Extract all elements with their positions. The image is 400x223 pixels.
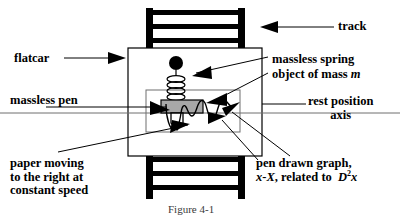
label-massless-spring: massless spring — [272, 53, 354, 67]
pen-graph-line1: pen drawn graph, — [256, 156, 352, 170]
label-paper-moving: paper movingto the right atconstant spee… — [10, 157, 88, 198]
rest-position-line1: rest position — [308, 94, 373, 108]
label-flatcar: flatcar — [14, 52, 49, 66]
spring-anchor — [169, 56, 183, 70]
pen-graph-D: D — [338, 170, 347, 184]
rest-position-line2: axis — [330, 108, 351, 122]
paper-moving-line2: to the right at — [10, 170, 83, 184]
figure-caption: Figure 4-1 — [168, 203, 214, 215]
pen-graph-x2: x — [351, 170, 357, 184]
figure-4-1: flatcar track massless spring object of … — [0, 0, 400, 223]
track-top — [146, 8, 245, 52]
label-massless-pen: massless pen — [10, 94, 78, 108]
pen-graph-X: X — [266, 170, 274, 184]
paper-moving-line1: paper moving — [10, 156, 84, 170]
track-bottom — [146, 155, 245, 199]
label-pen-drawn-graph: pen drawn graph,x-X, related to D2x — [256, 157, 357, 184]
paper-moving-line3: constant speed — [10, 183, 88, 197]
label-track: track — [338, 20, 366, 34]
pen-graph-mid: , related to — [275, 170, 338, 184]
label-rest-position-axis: rest positionaxis — [308, 95, 373, 122]
mass-symbol: m — [351, 67, 361, 81]
label-object-of-mass: object of mass m — [272, 68, 361, 82]
object-of-mass-text: object of mass — [272, 67, 351, 81]
